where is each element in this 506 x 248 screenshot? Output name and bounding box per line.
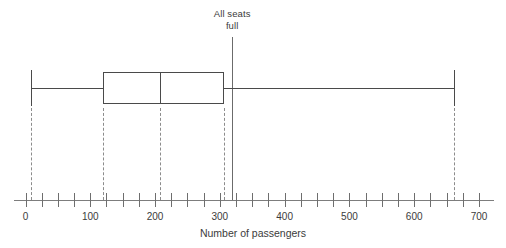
x-axis-tick — [139, 193, 140, 207]
x-axis-tick — [106, 193, 107, 207]
x-axis-tick — [463, 193, 464, 207]
x-axis-tick — [252, 193, 253, 207]
right-whisker-line — [224, 88, 454, 89]
x-axis-tick — [90, 193, 91, 207]
x-axis-tick-label: 400 — [260, 211, 310, 222]
x-axis-tick — [236, 193, 237, 207]
x-axis-tick — [430, 193, 431, 207]
x-axis-tick — [382, 193, 383, 207]
maximum-whisker-cap — [454, 70, 455, 106]
x-axis-tick — [155, 193, 156, 207]
dropline-minimum — [31, 108, 32, 200]
x-axis-tick — [58, 193, 59, 207]
x-axis-tick — [74, 193, 75, 207]
dropline-median — [160, 108, 161, 200]
minimum-whisker-cap — [31, 70, 32, 106]
box-plot-figure: All seats full 0100200300400500600700 Nu… — [0, 0, 506, 248]
x-axis-tick — [171, 193, 172, 207]
x-axis-tick — [447, 193, 448, 207]
x-axis-tick — [187, 193, 188, 207]
x-axis-tick — [285, 193, 286, 207]
x-axis-line — [14, 200, 494, 201]
x-axis-tick-label: 300 — [195, 211, 245, 222]
all-seats-full-reference-line — [232, 37, 233, 200]
x-axis-tick — [301, 193, 302, 207]
x-axis-tick — [398, 193, 399, 207]
x-axis-tick — [123, 193, 124, 207]
all-seats-full-label-line2: full — [172, 20, 292, 32]
all-seats-full-label-line1: All seats — [172, 8, 292, 20]
x-axis-tick — [26, 193, 27, 207]
x-axis-tick-label: 600 — [389, 211, 439, 222]
x-axis-tick-label: 500 — [324, 211, 374, 222]
x-axis-tick — [42, 193, 43, 207]
x-axis-tick — [317, 193, 318, 207]
all-seats-full-label: All seats full — [172, 8, 292, 31]
left-whisker-line — [31, 88, 104, 89]
x-axis-tick — [414, 193, 415, 207]
x-axis-tick — [333, 193, 334, 207]
x-axis-tick-label: 100 — [65, 211, 115, 222]
x-axis-tick — [479, 193, 480, 207]
x-axis-tick — [349, 193, 350, 207]
x-axis-tick-label: 0 — [1, 211, 51, 222]
x-axis-tick — [366, 193, 367, 207]
interquartile-box — [103, 72, 224, 104]
median-line — [160, 72, 161, 104]
x-axis-title: Number of passengers — [0, 227, 506, 239]
dropline-q1 — [103, 108, 104, 200]
x-axis-tick — [204, 193, 205, 207]
dropline-q3 — [224, 108, 225, 200]
x-axis-tick — [268, 193, 269, 207]
x-axis-tick-label: 200 — [130, 211, 180, 222]
x-axis-tick-label: 700 — [454, 211, 504, 222]
dropline-maximum — [454, 108, 455, 200]
x-axis-tick — [220, 193, 221, 207]
